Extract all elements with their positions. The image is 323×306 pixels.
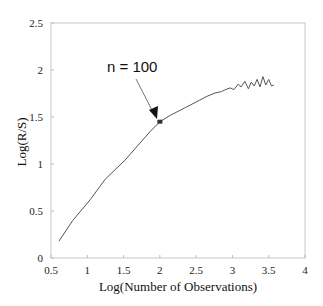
annotation-arrow-shaft (136, 79, 154, 114)
x-tick-label: 4 (302, 264, 308, 276)
annotation-label: n = 100 (107, 58, 157, 75)
y-tick-label: 1.5 (29, 111, 43, 123)
chart: 0.511.522.533.54 00.511.522.5 n = 100 Lo… (0, 0, 323, 306)
x-tick-label: 3.5 (262, 264, 276, 276)
rs-series-line (59, 77, 274, 242)
y-tick-label: 0 (38, 252, 44, 264)
x-tick-label: 2.5 (189, 264, 203, 276)
data-point-marker (157, 120, 162, 124)
y-tick-label: 2 (38, 64, 44, 76)
plot-frame (51, 23, 305, 258)
annotation-n100: n = 100 (107, 58, 162, 124)
x-tick-label: 1.5 (117, 264, 131, 276)
x-tick-label: 2 (157, 264, 163, 276)
x-tick-label: 3 (230, 264, 236, 276)
x-tick-label: 0.5 (44, 264, 58, 276)
y-tick-label: 1 (38, 158, 44, 170)
x-axis-label: Log(Number of Observations) (99, 279, 257, 294)
y-tick-label: 2.5 (29, 17, 43, 29)
y-tick-label: 0.5 (29, 205, 43, 217)
x-tick-label: 1 (85, 264, 91, 276)
y-axis-ticks: 00.511.522.5 (29, 17, 54, 264)
y-axis-label: Log(R/S) (14, 117, 29, 166)
